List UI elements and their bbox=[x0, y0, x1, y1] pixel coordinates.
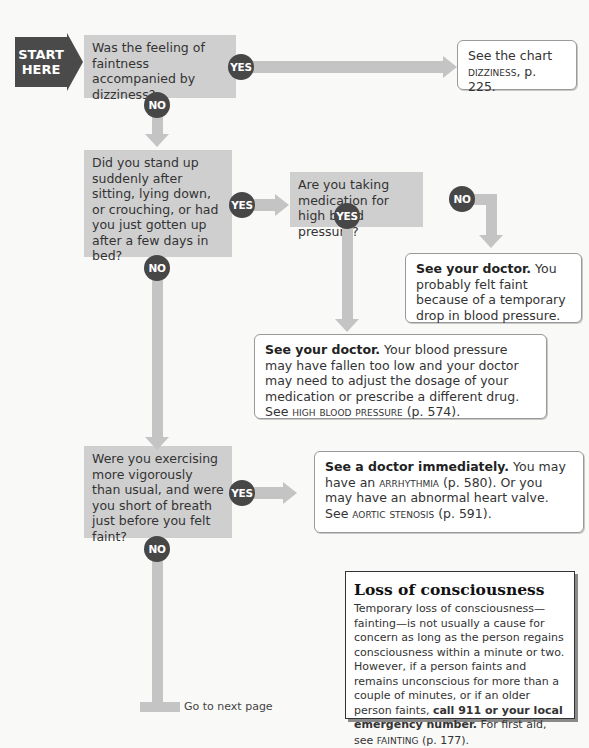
answer-bp-too-low: See your doctor. Your blood pressure may… bbox=[254, 334, 547, 419]
no-badge: NO bbox=[144, 255, 170, 281]
connector-line bbox=[140, 702, 180, 712]
info-box-body: Temporary loss of consciousness—fainting… bbox=[354, 602, 566, 748]
ref-dizziness: dizziness bbox=[468, 64, 516, 79]
no-badge: NO bbox=[144, 92, 170, 118]
yes-badge: YES bbox=[228, 54, 254, 80]
info-box-loss-of-consciousness: Loss of consciousness Temporary loss of … bbox=[345, 571, 575, 719]
answer-temporary-drop: See your doctor. You probably felt faint… bbox=[405, 253, 582, 323]
ref-arrhythmia: arrhythmia bbox=[379, 475, 439, 490]
arrow-down-icon bbox=[145, 134, 169, 147]
connector-line bbox=[254, 199, 276, 211]
connector-line bbox=[254, 487, 284, 499]
arrow-right-icon bbox=[443, 56, 457, 78]
start-arrow-tip-icon bbox=[67, 33, 83, 91]
connector-line bbox=[152, 275, 163, 438]
yes-badge: YES bbox=[334, 203, 360, 229]
no-badge: NO bbox=[144, 536, 170, 562]
here-label: HERE bbox=[22, 62, 61, 77]
connector-line bbox=[252, 61, 444, 73]
yes-badge: YES bbox=[229, 192, 255, 218]
ref-aortic-stenosis: aortic stenosis bbox=[352, 506, 434, 521]
start-here-arrow: START HERE bbox=[15, 37, 67, 87]
connector-line bbox=[342, 222, 353, 320]
arrow-down-icon bbox=[145, 437, 169, 450]
yes-badge: YES bbox=[229, 480, 255, 506]
ref-high-blood-pressure: high blood pressure bbox=[292, 404, 402, 419]
question-dizziness: Was the feeling of faintness accompanied… bbox=[84, 35, 236, 98]
arrow-right-icon bbox=[275, 194, 289, 216]
connector-line bbox=[152, 556, 163, 702]
connector-line bbox=[486, 194, 497, 236]
answer-dizziness-chart: See the chart dizziness, p. 225. bbox=[457, 40, 577, 90]
arrow-right-icon bbox=[283, 482, 297, 504]
arrow-down-icon bbox=[335, 319, 359, 332]
question-exercising: Were you exercising more vigorously than… bbox=[84, 446, 232, 538]
question-stand-up: Did you stand up suddenly after sitting,… bbox=[84, 150, 232, 257]
go-to-next-page[interactable]: Go to next page bbox=[184, 700, 273, 713]
no-badge: NO bbox=[449, 186, 475, 212]
start-label: START bbox=[18, 47, 64, 62]
ref-fainting: fainting bbox=[377, 732, 419, 747]
arrow-down-icon bbox=[479, 235, 503, 248]
answer-see-doctor-immediately: See a doctor immediately. You may have a… bbox=[314, 451, 584, 533]
info-box-title: Loss of consciousness bbox=[354, 580, 566, 599]
